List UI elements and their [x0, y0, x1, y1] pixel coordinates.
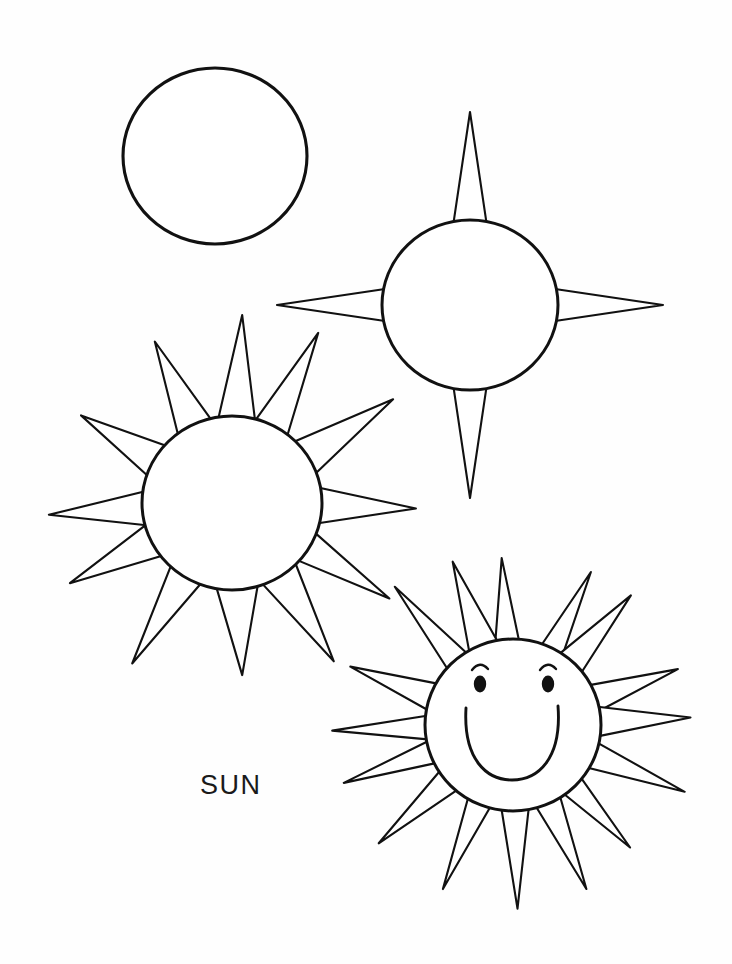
sun-drawing-illustration: [0, 0, 732, 964]
page-title: SUN: [200, 770, 261, 801]
ray-4-12: [332, 716, 427, 740]
ray-4-3: [590, 669, 678, 711]
right-eye-icon: [542, 676, 554, 693]
ray-3-3: [318, 488, 416, 524]
ray-east: [555, 289, 663, 321]
drawing-sheet: SUN: [0, 0, 732, 964]
ray-4-5: [588, 743, 685, 792]
ray-north: [454, 112, 487, 223]
ray-3-0: [218, 315, 255, 420]
ray-4-13: [350, 667, 437, 710]
ray-4-15: [453, 562, 498, 652]
ray-4-4: [598, 707, 691, 736]
ray-3-9: [49, 492, 146, 526]
step-3-circle: [142, 416, 322, 590]
step-2-circle: [382, 220, 558, 390]
step-1-circle: [123, 68, 307, 244]
step-4-finished-sun: [332, 558, 690, 909]
ray-4-9: [443, 798, 491, 890]
ray-3-6: [216, 585, 257, 675]
step-1-plain-circle: [123, 68, 307, 244]
ray-4-7: [536, 796, 586, 889]
left-eye-icon: [474, 676, 486, 693]
ray-4-11: [344, 741, 436, 783]
ray-4-8: [502, 808, 529, 908]
ray-west: [277, 289, 385, 321]
step-4-circle: [425, 639, 601, 811]
ray-4-14: [395, 587, 467, 670]
step-3-twelve-ray-sun: [49, 315, 416, 675]
ray-south: [454, 387, 487, 498]
ray-4-0: [495, 558, 519, 642]
